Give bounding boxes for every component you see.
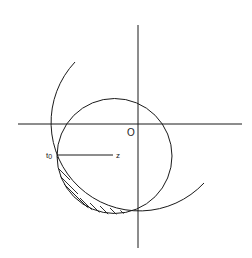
z-label: z bbox=[116, 151, 120, 160]
hatched-region bbox=[50, 150, 134, 226]
unit-circle bbox=[57, 99, 172, 214]
t0-label-subscript: 0 bbox=[48, 153, 52, 160]
origin-label: O bbox=[127, 127, 135, 138]
t0-label: t0 bbox=[46, 151, 52, 160]
diagram-canvas: O t0 z bbox=[0, 0, 252, 258]
